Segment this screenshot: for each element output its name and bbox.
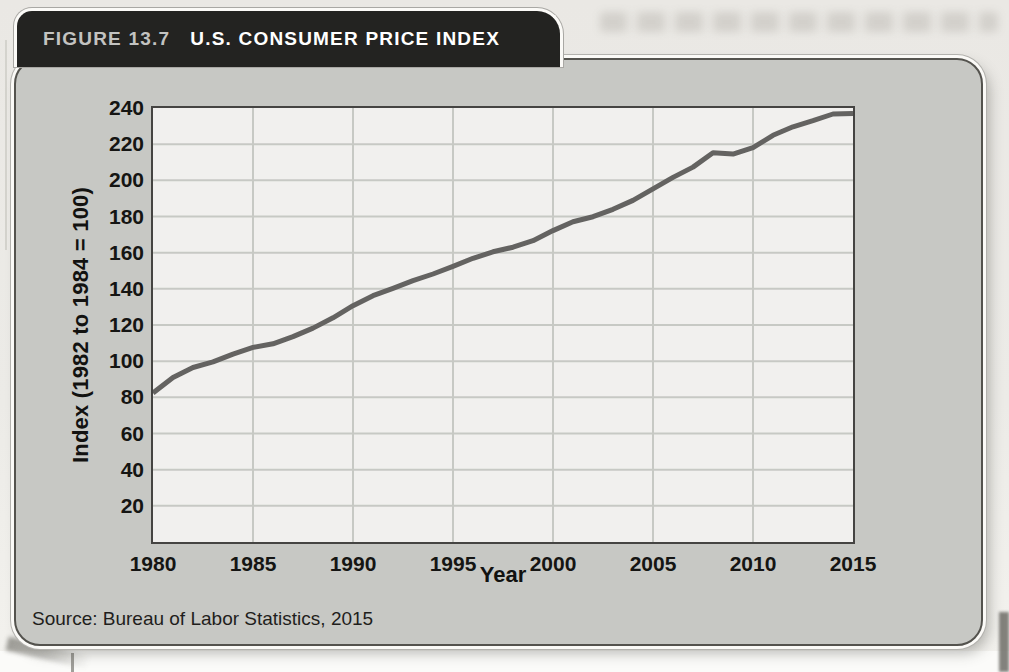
x-tick-label: 1980 xyxy=(108,552,198,576)
y-tick-label: 100 xyxy=(64,349,144,373)
cpi-line-chart: Index (1982 to 1984 = 100) 2402202001801… xyxy=(0,0,1009,672)
x-tick-label: 2015 xyxy=(808,552,898,576)
y-tick-label: 160 xyxy=(64,241,144,265)
y-tick-label: 140 xyxy=(64,277,144,301)
book-page: FIGURE 13.7 U.S. CONSUMER PRICE INDEX In… xyxy=(0,0,1009,672)
y-tick-label: 180 xyxy=(64,205,144,229)
y-tick-label: 200 xyxy=(64,168,144,192)
x-tick-label: 1985 xyxy=(208,552,298,576)
y-tick-label: 40 xyxy=(64,458,144,482)
y-tick-label: 20 xyxy=(64,494,144,518)
x-tick-label: 2010 xyxy=(708,552,798,576)
plot-svg xyxy=(153,108,853,542)
y-tick-label: 120 xyxy=(64,313,144,337)
x-axis-title: Year xyxy=(383,562,623,588)
source-note: Source: Bureau of Labor Statistics, 2015 xyxy=(32,608,373,630)
y-tick-label: 80 xyxy=(64,385,144,409)
plot-area xyxy=(151,106,855,544)
y-tick-label: 220 xyxy=(64,132,144,156)
y-tick-label: 60 xyxy=(64,422,144,446)
y-tick-label: 240 xyxy=(64,96,144,120)
